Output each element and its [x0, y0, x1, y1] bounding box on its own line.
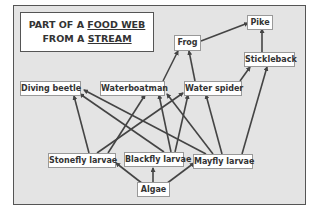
title-line-1: PART OF A FOOD WEB: [21, 18, 153, 32]
node-diving-beetle: Diving beetle: [20, 81, 81, 96]
node-algae: Algae: [137, 182, 170, 197]
title-line-2: FROM A STREAM: [21, 32, 153, 46]
diagram-title: PART OF A FOOD WEB FROM A STREAM: [20, 12, 154, 52]
node-stickleback: Stickleback: [244, 52, 295, 67]
node-blackfly-larvae: Blackfly larvae: [124, 152, 184, 167]
node-frog: Frog: [174, 35, 201, 51]
node-stonefly-larvae: Stonefly larvae: [48, 153, 116, 168]
node-pike: Pike: [247, 15, 273, 30]
node-waterboatman: Waterboatman: [100, 81, 165, 96]
node-mayfly-larvae: Mayfly larvae: [193, 154, 253, 169]
node-water-spider: Water spider: [184, 81, 242, 96]
